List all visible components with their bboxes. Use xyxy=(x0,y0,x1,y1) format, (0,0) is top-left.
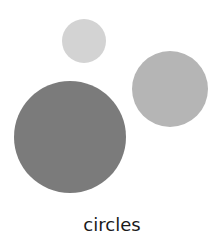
figure-caption: circles xyxy=(0,213,224,237)
large-dark-circle xyxy=(14,81,126,193)
small-light-circle xyxy=(62,19,106,63)
medium-circle xyxy=(132,51,208,127)
